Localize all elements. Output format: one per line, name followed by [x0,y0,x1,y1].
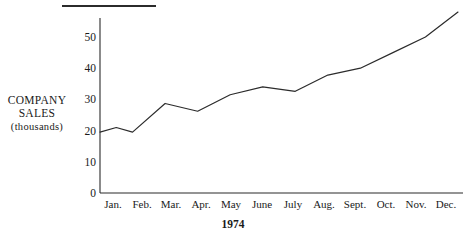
chart-figure: COMPANY SALES (thousands) 50 40 30 20 10… [0,0,466,237]
plot-area [0,0,466,237]
series-line-company-sales [100,12,458,132]
